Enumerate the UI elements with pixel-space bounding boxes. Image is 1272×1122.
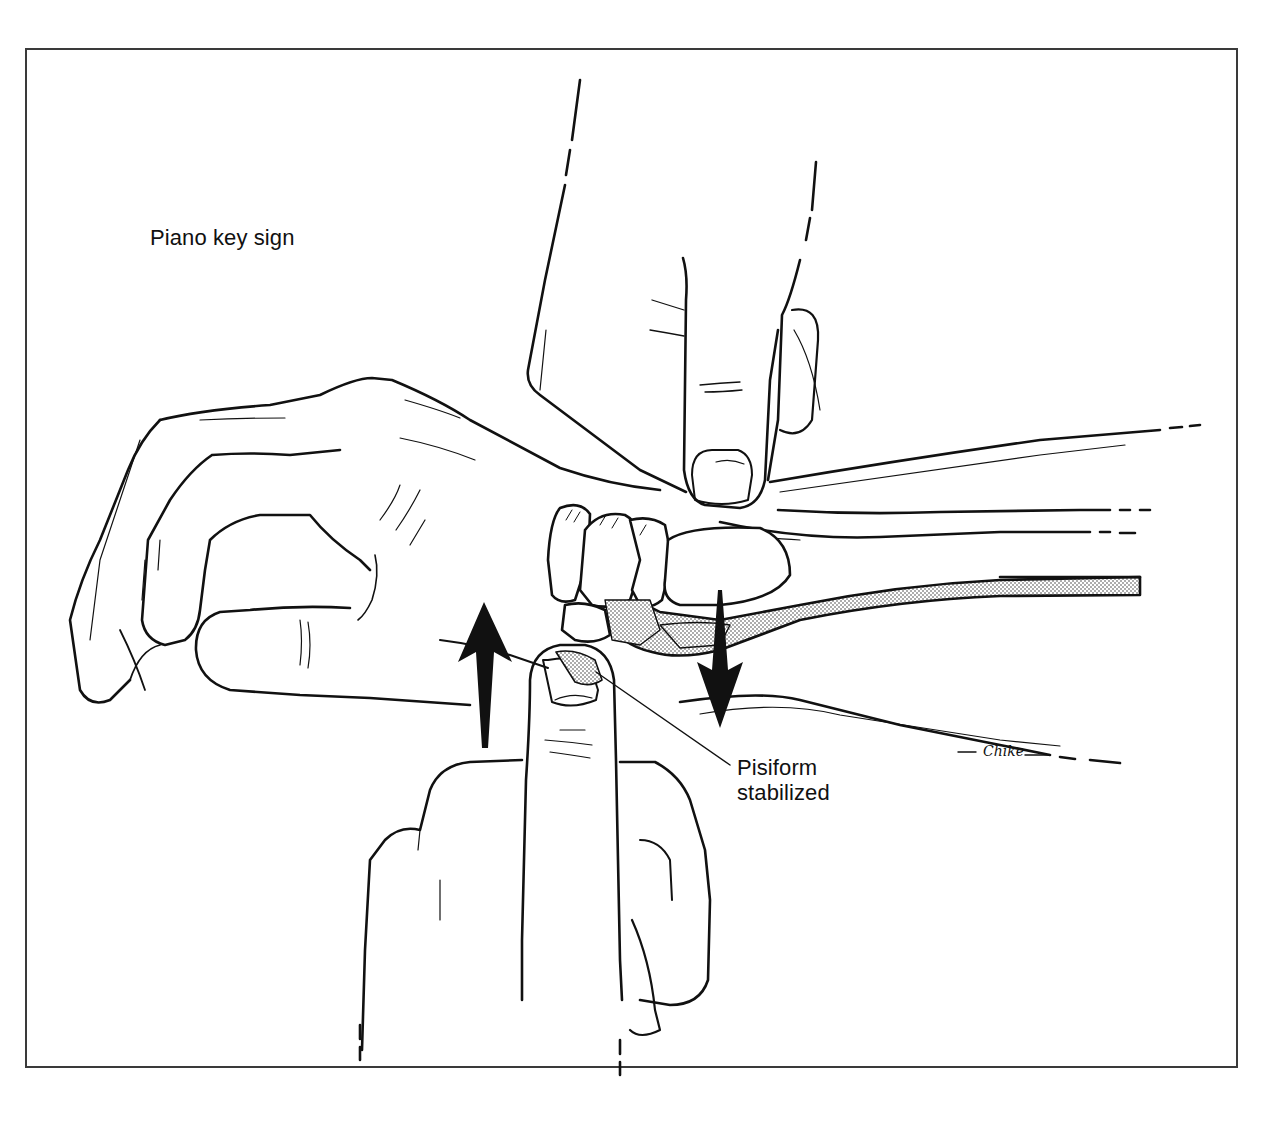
pisiform-callout-label: Pisiform stabilized	[737, 755, 830, 805]
figure-title: Piano key sign	[150, 226, 295, 250]
callout-line-1: Pisiform	[737, 755, 830, 780]
piano-key-sign-illustration	[0, 0, 1272, 1122]
artist-signature: Chike	[983, 743, 1024, 759]
up-arrow-icon	[458, 602, 512, 748]
examiner-lower-hand	[360, 645, 710, 1075]
examiner-upper-hand	[528, 80, 820, 508]
down-arrow-icon	[697, 590, 743, 728]
callout-line-2: stabilized	[737, 780, 830, 805]
